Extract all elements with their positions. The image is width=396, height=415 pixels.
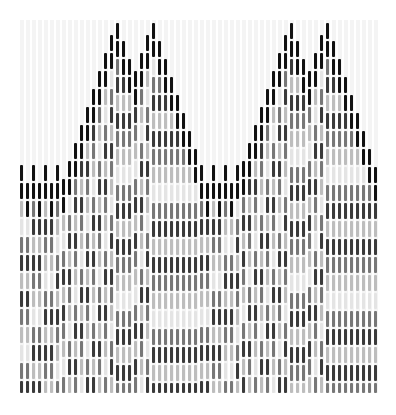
pattern-bar [38,201,41,217]
pattern-bar [110,89,113,105]
pattern-bar [212,219,215,235]
pattern-bar [182,113,185,129]
pattern-bar [332,149,335,165]
pattern-bar [326,149,329,165]
pattern-bar [68,269,71,285]
pattern-bar [356,383,359,393]
pattern-bar [182,383,185,393]
pattern-bar [374,239,377,255]
pattern-bar [110,179,113,195]
pattern-bar [182,131,185,147]
pattern-bar [272,215,275,231]
pattern-bar [260,125,263,141]
pattern-bar [356,293,359,309]
pattern-bar [272,71,275,87]
pattern-bar [350,185,353,201]
pattern-bar [212,309,215,325]
pattern-bar [236,273,239,289]
pattern-bar [44,309,47,325]
pattern-bar [278,341,281,357]
pattern-bar [236,363,239,379]
pattern-bar [296,167,299,183]
pattern-bar [62,251,65,267]
pattern-bar [116,149,119,165]
pattern-bar [254,323,257,339]
pattern-bar [272,161,275,177]
pattern-bar [44,381,47,393]
pattern-bar [110,35,113,51]
pattern-bar [38,381,41,393]
pattern-bar [86,197,89,213]
pattern-bar [320,35,323,51]
pattern-bar [170,347,173,363]
pattern-bar [92,359,95,375]
pattern-bar [32,327,35,343]
pattern-bar [92,89,95,105]
pattern-bar [110,233,113,249]
pattern-bar [62,323,65,339]
pattern-bar [272,89,275,105]
pattern-bar [218,255,221,271]
pattern-bar [302,77,305,93]
pattern-bar [362,203,365,219]
pattern-bar [98,107,101,123]
pattern-bar [182,275,185,291]
pattern-bar [302,383,305,393]
pattern-bar [296,239,299,255]
pattern-bar [290,275,293,291]
pattern-bar [308,179,311,195]
pattern-bar [320,179,323,195]
pattern-bar [290,239,293,255]
pattern-bar [152,23,155,39]
pattern-bar [272,341,275,357]
pattern-bar [104,359,107,375]
pattern-bar [350,275,353,291]
pattern-bar [122,203,125,219]
pattern-bar [98,89,101,105]
pattern-bar [158,185,161,201]
pattern-bar [338,113,341,129]
pattern-bar [116,131,119,147]
pattern-bar [320,287,323,303]
pattern-bar [140,359,143,375]
pattern-bar [332,329,335,345]
pattern-bar [200,183,203,199]
pattern-bar [182,329,185,345]
pattern-bar [146,71,149,87]
pattern-bar [278,197,281,213]
pattern-bar [86,215,89,231]
pattern-bar [38,309,41,325]
pattern-bar [308,323,311,339]
pattern-bar [368,167,371,183]
pattern-bar [170,329,173,345]
pattern-bar [50,381,53,393]
pattern-bar [344,311,347,327]
pattern-bar [152,59,155,75]
pattern-bar [194,383,197,393]
pattern-bar [344,203,347,219]
pattern-bar [320,71,323,87]
pattern-bar [356,347,359,363]
pattern-bar [272,233,275,249]
pattern-bar [170,365,173,381]
pattern-bar [248,359,251,375]
pattern-bar [134,323,137,339]
pattern-bar [32,273,35,289]
pattern-bar [116,23,119,39]
pattern-bar [50,237,53,253]
pattern-bar [296,41,299,57]
pattern-bar [344,131,347,147]
pattern-bar [116,41,119,57]
pattern-bar [374,257,377,273]
pattern-bar [278,107,281,123]
pattern-bar [326,77,329,93]
pattern-bar [332,59,335,75]
pattern-bar [368,275,371,291]
pattern-bar [266,107,269,123]
pattern-bar [284,287,287,303]
pattern-bar [338,203,341,219]
pattern-bar [56,345,59,361]
pattern-bar [146,89,149,105]
pattern-bar [56,201,59,217]
pattern-bar [146,215,149,231]
